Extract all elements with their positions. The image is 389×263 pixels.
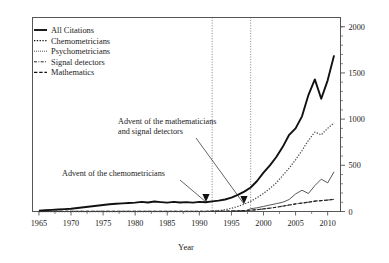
x-tick-label-1990: 1990 [191, 219, 207, 228]
y-tick-label-1000: 1000 [349, 115, 365, 124]
x-tick-label-1995: 1995 [223, 219, 239, 228]
legend-label-signal-detectors: Signal detectors [51, 58, 105, 67]
x-tick-label-1975: 1975 [95, 219, 111, 228]
annotation-mathematicians-line-0: Advent of the mathematicians [118, 117, 216, 126]
legend-label-mathematics: Mathematics [51, 68, 94, 77]
annotation-chemometricians-line-0: Advent of the chemometricians [62, 169, 165, 178]
x-tick-label-2010: 2010 [319, 219, 335, 228]
y-tick-label-0: 0 [349, 208, 353, 217]
annotation-mathematicians-line-1: and signal detectors [118, 127, 183, 136]
legend-label-all-citations: All Citations [51, 26, 94, 35]
x-axis-title: Year [178, 242, 194, 252]
y-tick-label-1500: 1500 [349, 69, 365, 78]
x-tick-label-2000: 2000 [255, 219, 271, 228]
x-tick-label-1965: 1965 [31, 219, 47, 228]
y-tick-label-2000: 2000 [349, 23, 365, 32]
legend-label-chemometricians: Chemometricians [51, 37, 110, 46]
chart-figure: 1965197019751980198519901995200020052010… [0, 0, 389, 263]
citations-line-chart: 1965197019751980198519901995200020052010… [0, 0, 389, 263]
y-tick-label-500: 500 [349, 161, 361, 170]
x-tick-label-1970: 1970 [63, 219, 79, 228]
x-tick-label-2005: 2005 [287, 219, 303, 228]
legend-label-psychometricians: Psychometricians [51, 47, 110, 56]
x-tick-label-1980: 1980 [127, 219, 143, 228]
x-tick-label-1985: 1985 [159, 219, 175, 228]
